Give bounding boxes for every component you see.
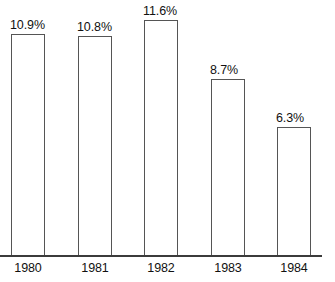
value-label-1981: 10.8% xyxy=(77,20,112,34)
category-label-1981: 1981 xyxy=(68,261,122,276)
value-label-1982: 11.6% xyxy=(143,4,177,18)
value-label-1983: 8.7% xyxy=(210,63,238,77)
value-label-1984: 6.3% xyxy=(276,111,304,125)
bar-chart: 10.9% 10.8% 11.6% 8.7% 6.3% 1980 1981 19… xyxy=(0,0,335,282)
category-label-1982: 1982 xyxy=(134,261,188,276)
category-label-1984: 1984 xyxy=(267,261,321,276)
bar-1982 xyxy=(144,20,178,255)
bar-1984 xyxy=(277,127,311,255)
value-label-1980: 10.9% xyxy=(10,18,45,32)
bar-1980 xyxy=(11,34,45,255)
category-label-1980: 1980 xyxy=(1,261,55,276)
bar-1981 xyxy=(78,36,112,255)
bar-1983 xyxy=(211,79,245,255)
x-axis-line xyxy=(0,255,322,257)
plot-area: 10.9% 10.8% 11.6% 8.7% 6.3% 1980 1981 19… xyxy=(0,0,335,282)
category-label-1983: 1983 xyxy=(201,261,255,276)
